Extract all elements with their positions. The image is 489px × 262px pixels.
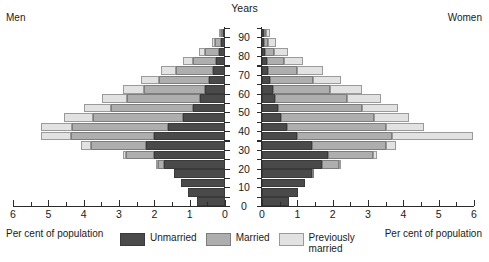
bar-row	[174, 169, 225, 178]
bar-segment-unmarried	[181, 179, 225, 188]
y-axis-tick	[257, 75, 262, 76]
bar-segment-unmarried	[146, 141, 226, 150]
legend-item-prev[interactable]: Previously married	[279, 232, 355, 254]
bar-segment-unmarried	[183, 113, 225, 122]
y-axis-tick-label: 90	[231, 31, 257, 43]
bar-row	[262, 38, 276, 47]
bar-segment-unmarried	[262, 94, 275, 103]
x-axis-tick-label: 1	[187, 208, 193, 220]
bar-segment-married	[126, 151, 154, 160]
y-axis-tick-label: 10	[231, 181, 257, 193]
bar-segment-unmarried	[216, 57, 225, 66]
y-axis-tick	[225, 103, 230, 104]
bar-segment-unmarried	[213, 66, 225, 75]
bar-row	[183, 57, 225, 66]
bar-row	[262, 160, 341, 169]
bar-segment-unmarried	[262, 188, 298, 197]
bar-segment-married	[328, 151, 372, 160]
bar-segment-unmarried	[262, 169, 312, 178]
bar-row	[197, 197, 225, 206]
x-axis-tick-label: 0	[222, 208, 228, 220]
right-axis-caption: Per cent of population	[385, 228, 482, 240]
bar-segment-married	[265, 48, 274, 57]
bar-row	[262, 132, 473, 141]
bar-segment-prev	[84, 104, 112, 113]
y-axis-tick	[225, 169, 230, 170]
bar-segment-married	[93, 113, 183, 122]
bar-segment-prev	[386, 123, 424, 132]
bar-segment-prev	[161, 66, 175, 75]
population-pyramid-chart: Men Women Years Per cent of population P…	[0, 0, 489, 262]
x-axis-tick	[439, 200, 440, 206]
y-axis-tick	[257, 28, 262, 29]
bar-segment-unmarried	[262, 197, 289, 206]
bar-segment-married	[312, 141, 386, 150]
bar-segment-unmarried	[221, 38, 225, 47]
x-axis-tick-label: 3	[365, 208, 371, 220]
y-axis-tick	[257, 150, 262, 151]
x-axis-tick-label: 5	[45, 208, 51, 220]
y-axis-tick	[257, 94, 262, 95]
y-axis-tick-label: 60	[231, 88, 257, 100]
bar-segment-prev	[183, 57, 193, 66]
y-axis-tick	[225, 150, 230, 151]
x-axis-tick	[297, 200, 298, 206]
x-axis-tick	[66, 202, 67, 206]
bar-segment-married	[72, 123, 167, 132]
x-axis-tick	[421, 202, 422, 206]
x-axis-tick	[154, 200, 155, 206]
y-axis-tick	[225, 37, 230, 38]
bar-segment-married	[273, 85, 330, 94]
bar-segment-unmarried	[262, 132, 297, 141]
x-axis-tick	[84, 200, 85, 206]
bar-row	[41, 123, 225, 132]
y-axis-tick-label: 20	[231, 163, 257, 175]
x-axis-tick	[172, 202, 173, 206]
y-axis-tick	[257, 187, 262, 188]
x-axis-tick	[474, 200, 475, 206]
x-axis-tick-label: 6	[10, 208, 16, 220]
bar-row	[262, 169, 314, 178]
x-axis-tick	[190, 200, 191, 206]
bar-row	[141, 76, 225, 85]
legend-item-married[interactable]: Married	[206, 232, 270, 246]
legend-label: Previously married	[309, 232, 355, 254]
bar-segment-unmarried	[168, 123, 225, 132]
chart-legend: UnmarriedMarriedPreviously married	[120, 232, 355, 254]
bar-segment-unmarried	[219, 48, 225, 57]
bar-segment-married	[278, 104, 363, 113]
x-axis-tick	[101, 202, 102, 206]
y-axis-title: Years	[0, 2, 489, 14]
x-axis-tick	[386, 202, 387, 206]
x-axis-tick-label: 1	[294, 208, 300, 220]
y-axis-tick	[225, 140, 230, 141]
bar-segment-prev	[102, 94, 127, 103]
bar-segment-prev	[64, 113, 93, 122]
x-axis-tick-label: 4	[81, 208, 87, 220]
bar-segment-married	[268, 66, 297, 75]
y-axis-tick	[257, 56, 262, 57]
x-axis-tick-label: 2	[151, 208, 157, 220]
bar-row	[123, 151, 225, 160]
bar-row	[262, 48, 288, 57]
bar-segment-unmarried	[200, 94, 225, 103]
bar-segment-married	[91, 141, 146, 150]
bar-segment-prev	[41, 123, 72, 132]
y-axis-tick	[257, 206, 262, 207]
bar-segment-married	[193, 57, 216, 66]
bar-segment-unmarried	[262, 160, 322, 169]
bar-row	[212, 38, 225, 47]
bar-row	[188, 188, 225, 197]
x-axis-tick	[280, 202, 281, 206]
bar-segment-prev	[330, 85, 362, 94]
bar-segment-prev	[373, 151, 377, 160]
bar-segment-prev	[362, 104, 397, 113]
bar-row	[262, 94, 381, 103]
bar-segment-married	[270, 76, 312, 85]
x-axis-tick	[31, 202, 32, 206]
legend-swatch-prev	[279, 233, 304, 246]
left-axis-caption: Per cent of population	[6, 228, 103, 240]
bar-segment-unmarried	[164, 160, 225, 169]
legend-item-unmarried[interactable]: Unmarried	[120, 232, 197, 246]
bar-segment-unmarried	[262, 76, 270, 85]
